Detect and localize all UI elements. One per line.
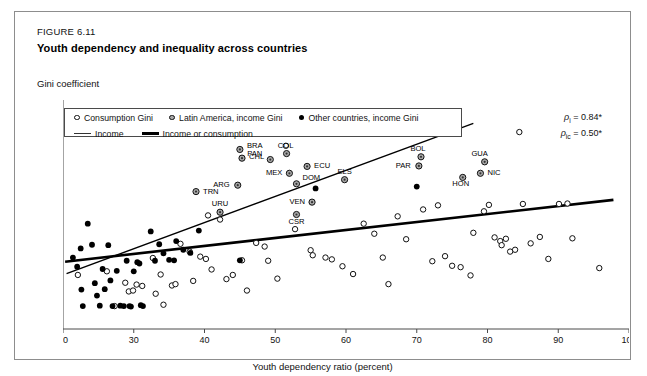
open-circle-icon (71, 115, 83, 120)
svg-text:80: 80 (482, 335, 492, 345)
rho-income-consumption-subscript: ic (566, 133, 571, 140)
svg-text:30: 30 (129, 335, 139, 345)
legend-row-lines: Income Income or consumption (71, 127, 455, 140)
y-axis-title: Gini coefficient (37, 78, 99, 89)
legend-item-income-or-consumption-line[interactable]: Income or consumption (142, 129, 253, 139)
svg-text:40: 40 (199, 335, 209, 345)
svg-text:ECU: ECU (314, 161, 330, 170)
legend-item-income-line[interactable]: Income (74, 129, 124, 139)
figure-number: FIGURE 6.11 (37, 26, 96, 37)
svg-text:TRN: TRN (203, 187, 219, 196)
black-circle-icon (295, 115, 307, 121)
rho-income: ρi = 0.84* (561, 111, 602, 127)
svg-text:100: 100 (621, 335, 629, 345)
figure-title: Youth dependency and inequality across c… (37, 42, 308, 54)
rho-income-subscript: i (569, 117, 571, 124)
x-axis-title: Youth dependency ratio (percent) (252, 361, 392, 372)
latin-america-points (193, 146, 488, 217)
legend-item-consumption-gini[interactable]: Consumption Gini (71, 113, 153, 123)
svg-text:70: 70 (412, 335, 422, 345)
legend-label-latin-america: Latin America, income Gini (179, 113, 282, 123)
svg-text:CSR: CSR (288, 217, 305, 226)
figure-frame: FIGURE 6.11 Youth dependency and inequal… (14, 11, 631, 360)
legend-row-markers: Consumption Gini Latin America, income G… (71, 111, 455, 124)
legend: Consumption Gini Latin America, income G… (64, 108, 462, 137)
legend-label-consumption-gini: Consumption Gini (84, 113, 153, 123)
country-labels: BRACHLCOLPANECUMEXARGDOMELSVENCSRTRNURUB… (203, 141, 501, 226)
thin-line-icon (74, 133, 91, 135)
rho-income-value: = 0.84* (573, 112, 602, 122)
legend-label-other-countries: Other countries, income Gini (308, 113, 418, 123)
svg-text:VEN: VEN (289, 197, 305, 206)
svg-text:BOL: BOL (410, 144, 425, 153)
svg-text:50: 50 (270, 335, 280, 345)
correlation-annotations: ρi = 0.84* ρic = 0.50* (561, 111, 602, 144)
legend-label-income-or-consumption: Income or consumption (163, 129, 253, 139)
x-axis-title-wrap: Youth dependency ratio (percent) (15, 361, 630, 372)
svg-text:GUA: GUA (471, 149, 488, 158)
svg-text:60: 60 (341, 335, 351, 345)
svg-text:COL: COL (278, 141, 294, 150)
legend-item-other-countries[interactable]: Other countries, income Gini (295, 113, 418, 123)
x-axis-ticks: 2030405060708090100 (63, 329, 629, 345)
trendlines (65, 123, 613, 273)
legend-item-latin-america[interactable]: Latin America, income Gini (166, 113, 282, 123)
thick-line-icon (142, 132, 159, 135)
svg-text:20: 20 (63, 335, 68, 345)
consumption-gini-points (75, 129, 602, 308)
svg-text:HON: HON (452, 179, 469, 188)
rho-income-consumption-value: = 0.50* (573, 128, 602, 138)
grey-circle-icon (166, 115, 178, 121)
svg-text:ELS: ELS (337, 167, 351, 176)
svg-text:DOM: DOM (302, 173, 320, 182)
svg-text:PAR: PAR (396, 161, 412, 170)
svg-text:URU: URU (212, 199, 228, 208)
rho-income-consumption: ρic = 0.50* (561, 127, 602, 143)
svg-text:NIC: NIC (487, 168, 501, 177)
svg-text:MEX: MEX (266, 168, 282, 177)
svg-text:PAN: PAN (247, 149, 262, 158)
legend-label-income: Income (95, 129, 124, 139)
svg-text:90: 90 (553, 335, 563, 345)
